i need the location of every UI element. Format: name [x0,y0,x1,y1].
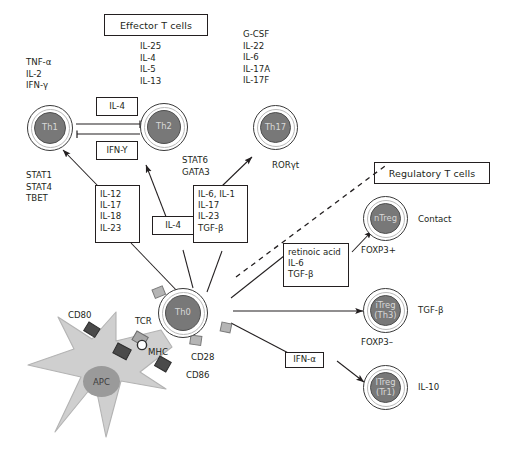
th2-cytokine-1: IL-4 [140,53,161,65]
th17-cytokine-1: IL-22 [243,41,270,53]
th17-output-cytokines: G-CSF IL-22 IL-6 IL-17A IL-17F [243,29,270,87]
th2-label: Th2 [156,122,172,131]
th17-cytokine-2: IL-6 [243,52,270,64]
box-il4-top-label: IL-4 [109,101,125,112]
label-mhc: MHC [148,347,168,357]
cell-th17: Th17 [253,105,298,150]
figure-canvas: Effector T cells Regulatory T cells TNF-… [0,0,509,450]
th17-driver-1: IL-17 [198,200,243,211]
label-cd28: CD28 [191,352,215,362]
th1-output-cytokines: TNF-α IL-2 IFN-γ [26,57,51,92]
box-th2-drivers: IL-4 [152,216,194,235]
treg-driver-0: retinoic acid [288,247,344,258]
apc-label: APC [93,377,110,387]
cell-th1: Th1 [27,105,73,151]
th1-tf-0: STAT1 [26,170,52,182]
th0-label: Th0 [175,308,191,317]
treg-driver-2: TGF-β [288,269,344,280]
box-tr1-driver: IFN-α [285,352,324,368]
ntreg-label: nTreg [374,214,397,223]
box-th1-drivers: IL-12 IL-17 IL-18 IL-23 [95,185,140,243]
arrow-to-th17 [221,157,252,187]
th17-driver-3: TGF-β [198,223,243,234]
th1-label: Th1 [42,123,58,132]
th17-cytokine-4: IL-17F [243,75,270,87]
th0-stems [131,243,222,294]
ntreg-nucleus: nTreg [370,203,401,234]
box-il4-th2-to-th1: IL-4 [96,97,138,116]
th2-tf-1: GATA3 [182,167,210,179]
box-treg-drivers: retinoic acid IL-6 TGF-β [283,243,349,287]
label-ntreg-marker: FOXP3+ [361,245,396,255]
th2-output-cytokines: IL-25 IL-4 IL-5 IL-13 [140,41,161,87]
th1-cytokine-0: TNF-α [26,57,51,69]
box-ifny-th1-to-th2: IFN-Y [96,141,138,160]
cell-th2: Th2 [140,103,188,151]
th2-transcription-factors: STAT6 GATA3 [182,155,210,178]
box-th17-drivers: IL-6, IL-1 IL-17 IL-23 TGF-β [193,185,248,243]
arrow-to-th1 [63,150,98,186]
label-th3-marker: FOXP3– [361,337,393,347]
th17-label: Th17 [265,123,286,132]
th17-cytokine-3: IL-17A [243,64,270,76]
itreg-th3-label-2: (Th3) [374,311,396,320]
th1-cytokine-1: IL-2 [26,69,51,81]
cell-th0: Th0 [158,288,208,338]
th2-tf-0: STAT6 [182,155,210,167]
treg-driver-1: IL-6 [288,258,344,269]
th1-nucleus: Th1 [34,112,66,144]
label-cd86: CD86 [186,370,210,380]
th2-cytokine-0: IL-25 [140,41,161,53]
th1-tf-1: STAT4 [26,182,52,194]
tr1-driver-0: IFN-α [293,354,316,365]
th2-nucleus: Th2 [147,110,181,144]
th17-transcription-factors: RORγt [272,160,299,172]
th1-th2-inhibition [76,121,140,139]
th0-nucleus: Th0 [165,295,201,331]
th17-nucleus: Th17 [260,112,291,143]
label-ntreg-effect: Contact [418,214,451,224]
apc-nucleus: APC [83,366,120,397]
th17-driver-0: IL-6, IL-1 [198,189,243,200]
itreg-tr1-label-2: (Tr1) [376,388,395,397]
cell-itreg-th3: iTreg (Th3) [363,288,408,333]
th1-driver-3: IL-23 [100,223,135,234]
itreg-th3-nucleus: iTreg (Th3) [370,295,401,326]
th1-driver-1: IL-17 [100,200,135,211]
th17-cytokine-0: G-CSF [243,29,270,41]
th1-driver-0: IL-12 [100,189,135,200]
th2-driver-0: IL-4 [165,220,181,231]
th1-cytokine-2: IFN-γ [26,80,51,92]
label-tr1-effect: IL-10 [418,382,439,392]
th2-cytokine-2: IL-5 [140,64,161,76]
cell-ntreg: nTreg [363,196,408,241]
box-ifny-label: IFN-Y [106,145,127,156]
cell-itreg-tr1: ITreg (Tr1) [363,365,408,410]
label-th3-effect: TGF-β [418,305,443,315]
th1-tf-2: TBET [26,193,52,205]
label-tcr: TCR [135,316,152,326]
th1-transcription-factors: STAT1 STAT4 TBET [26,170,52,205]
th17-driver-2: IL-23 [198,211,243,222]
itreg-tr1-nucleus: ITreg (Tr1) [370,372,401,403]
th2-cytokine-3: IL-13 [140,76,161,88]
th1-driver-2: IL-18 [100,211,135,222]
th17-tf-0: RORγt [272,160,299,172]
label-cd80: CD80 [68,310,92,320]
